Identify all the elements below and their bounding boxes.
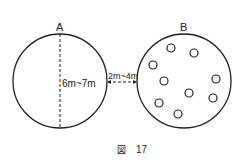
- label-a: A: [56, 21, 64, 33]
- dot: [185, 89, 193, 97]
- dot: [167, 44, 175, 52]
- dot: [155, 99, 163, 107]
- figure-17-diagram: A 6m~7m 2m~4m B 図 17: [0, 0, 241, 166]
- dot: [209, 94, 217, 102]
- dot: [160, 77, 168, 85]
- dot: [190, 49, 198, 57]
- dot: [149, 61, 157, 69]
- dot: [174, 110, 182, 118]
- caption-number: 17: [136, 144, 148, 155]
- gap-label: 2m~4m: [108, 71, 138, 81]
- dimension-a-label: 6m~7m: [62, 78, 96, 89]
- label-b: B: [180, 21, 187, 33]
- circle-b: [137, 34, 231, 128]
- dot: [212, 75, 220, 83]
- dots-group: [149, 44, 220, 118]
- caption-prefix: 図: [117, 145, 126, 155]
